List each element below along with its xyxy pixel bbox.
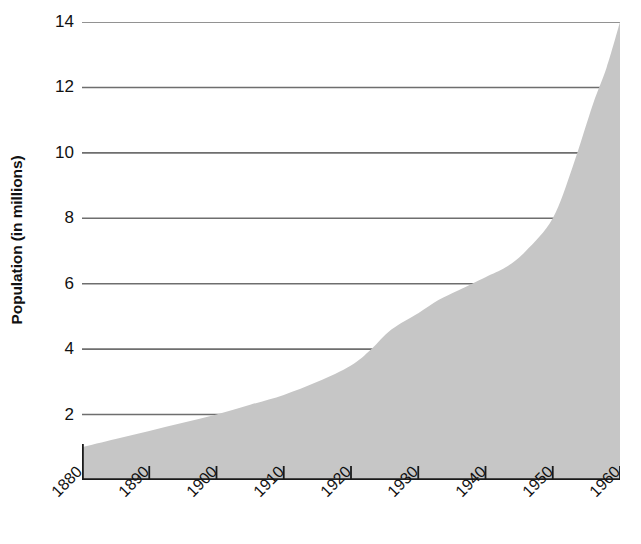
y-axis-title: Population (in millions): [0, 0, 34, 480]
population-area-chart: Population (in millions) 2468101214 1880…: [0, 0, 641, 544]
y-tick-label-8: 8: [44, 208, 74, 228]
y-tick-label-4: 4: [44, 339, 74, 359]
x-axis-tick-labels: 188018901900191019201930194019501960: [0, 480, 641, 544]
y-axis-title-text: Population (in millions): [8, 156, 26, 325]
y-tick-label-14: 14: [44, 12, 74, 32]
y-tick-label-10: 10: [44, 143, 74, 163]
y-tick-label-12: 12: [44, 77, 74, 97]
population-area-series: [82, 22, 620, 480]
y-tick-label-2: 2: [44, 405, 74, 425]
plot-area: [82, 22, 620, 480]
y-tick-label-6: 6: [44, 274, 74, 294]
plot-svg: [82, 22, 620, 480]
y-axis-tick-labels: 2468101214: [38, 0, 74, 544]
